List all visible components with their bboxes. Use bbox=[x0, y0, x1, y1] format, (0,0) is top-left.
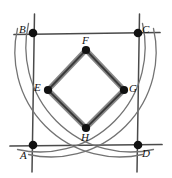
vertex-dot-d bbox=[134, 141, 143, 150]
geometry-figure: B C A D F E G H bbox=[0, 0, 172, 178]
vertex-label-f: F bbox=[82, 35, 89, 46]
inner-quadrilateral-efgh bbox=[48, 50, 124, 128]
vertex-dot-f bbox=[82, 46, 90, 54]
vertex-label-h: H bbox=[81, 132, 89, 143]
vertex-label-d: D bbox=[142, 148, 150, 159]
diamond-outline bbox=[48, 50, 124, 128]
vertex-dot-c bbox=[134, 29, 143, 38]
diamond-edge-highlight bbox=[48, 50, 124, 128]
vertex-dot-a bbox=[29, 141, 38, 150]
vertex-label-e: E bbox=[34, 82, 41, 93]
vertex-label-g: G bbox=[129, 83, 137, 94]
vertex-dot-b bbox=[29, 29, 38, 38]
vertex-label-b: B bbox=[19, 24, 26, 35]
diamond-band bbox=[48, 50, 124, 128]
vertex-dot-e bbox=[44, 86, 52, 94]
vertex-label-c: C bbox=[142, 24, 149, 35]
vertex-label-a: A bbox=[20, 150, 27, 161]
vertex-dot-g bbox=[120, 86, 128, 94]
